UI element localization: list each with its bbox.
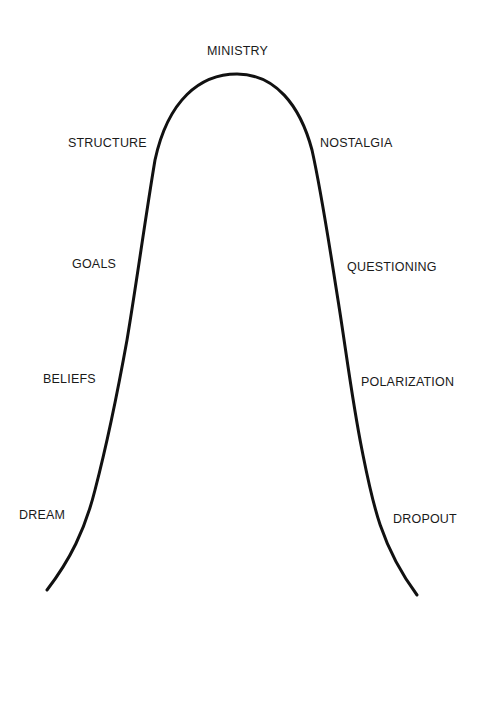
label-goals: GOALS [72,258,116,271]
life-cycle-diagram: MINISTRY STRUCTURE GOALS BELIEFS DREAM N… [0,0,486,705]
bell-curve-path [47,74,417,595]
label-nostalgia: NOSTALGIA [320,137,392,150]
bell-curve [0,0,486,705]
label-dream: DREAM [19,509,65,522]
label-dropout: DROPOUT [393,513,457,526]
label-ministry: MINISTRY [207,45,268,58]
label-questioning: QUESTIONING [347,261,437,274]
label-structure: STRUCTURE [68,137,147,150]
label-beliefs: BELIEFS [43,373,96,386]
label-polarization: POLARIZATION [361,376,454,389]
